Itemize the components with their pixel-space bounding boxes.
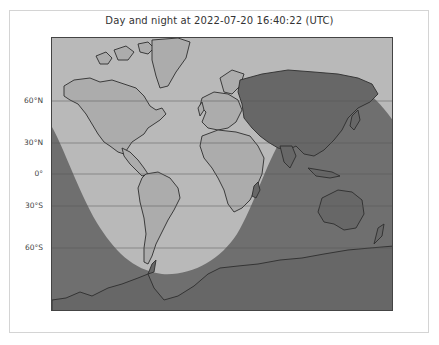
figure-title: Day and night at 2022-07-20 16:40:22 (UT… <box>0 15 439 26</box>
lat-label-60n: 60°N <box>24 96 43 105</box>
lat-label-60s: 60°S <box>25 243 43 252</box>
world-map <box>51 37 393 311</box>
lat-label-30s: 30°S <box>25 201 43 210</box>
lat-label-equator: 0° <box>34 169 43 178</box>
lat-label-30n: 30°N <box>24 138 43 147</box>
